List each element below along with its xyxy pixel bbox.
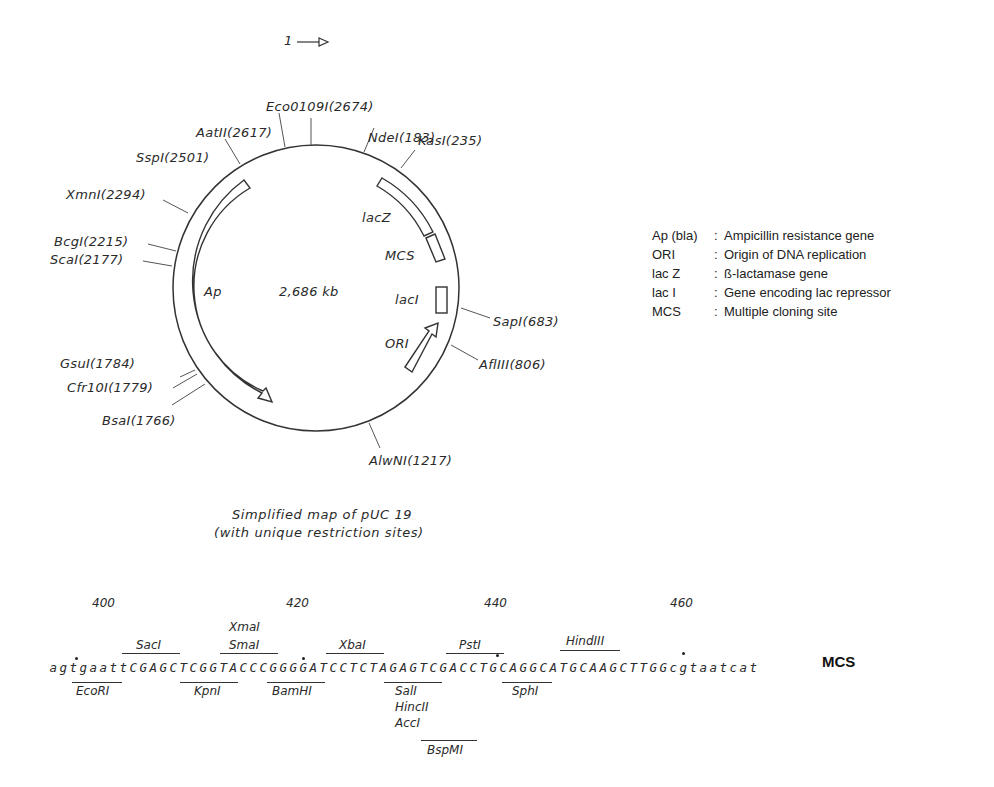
mcs-sequence: agtgaattCGAGCTCGGTACCCGGGGATCCTCTAGAGTCG… <box>48 660 758 675</box>
sequence-base: C <box>328 660 338 675</box>
sequence-base: g <box>678 660 688 675</box>
sequence-base: g <box>58 660 68 675</box>
sequence-base: T <box>368 660 378 675</box>
position-420: 420 <box>286 596 309 610</box>
origin-label: 1 <box>284 33 293 48</box>
sequence-base: G <box>388 660 398 675</box>
sequence-base: G <box>268 660 278 675</box>
sequence-base: C <box>538 660 548 675</box>
legend-desc: ß-lactamase gene <box>724 264 828 283</box>
site-label-xmni: XmnI(2294) <box>66 187 146 202</box>
sequence-base: A <box>598 660 608 675</box>
sequence-base: C <box>578 660 588 675</box>
sequence-base: T <box>318 660 328 675</box>
sequence-base: T <box>418 660 428 675</box>
legend-row: lac Z : ß-lactamase gene <box>652 264 891 283</box>
laci-box <box>436 287 447 313</box>
site-label-kasi: KasI(235) <box>418 133 482 148</box>
sequence-base: G <box>298 660 308 675</box>
plasmid-size-label: 2,686 kb <box>279 284 339 299</box>
sequence-base: c <box>668 660 678 675</box>
enzyme-bamhi-bar <box>267 682 325 683</box>
legend-key: ORI <box>652 245 714 264</box>
enzyme-kpni: KpnI <box>194 684 221 698</box>
sequence-base: t <box>68 660 78 675</box>
sequence-base: A <box>588 660 598 675</box>
mcs-box <box>426 234 445 262</box>
legend-key: lac Z <box>652 264 714 283</box>
sequence-base: T <box>558 660 568 675</box>
sequence-base: C <box>458 660 468 675</box>
gene-label-lacz: lacZ <box>362 210 391 225</box>
legend-row: MCS : Multiple cloning site <box>652 302 891 321</box>
legend-sep: : <box>714 226 724 245</box>
sequence-base: g <box>78 660 88 675</box>
enzyme-bspmi: BspMI <box>427 743 463 757</box>
ori-arrow <box>405 323 438 372</box>
enzyme-sphi-bar <box>502 682 552 683</box>
site-label-sspi: SspI(2501) <box>136 150 209 165</box>
sequence-base: C <box>188 660 198 675</box>
enzyme-sphi: SphI <box>512 684 538 698</box>
enzyme-xbai: XbaI <box>339 638 366 652</box>
sequence-base: C <box>468 660 478 675</box>
sequence-base: G <box>158 660 168 675</box>
sequence-base: T <box>218 660 228 675</box>
legend-desc: Ampicillin resistance gene <box>724 226 874 245</box>
sequence-base: A <box>228 660 238 675</box>
sequence-base: a <box>708 660 718 675</box>
sequence-base: G <box>288 660 298 675</box>
sequence-base: G <box>198 660 208 675</box>
gene-label-laci: lacI <box>395 292 419 307</box>
sequence-base: G <box>278 660 288 675</box>
sequence-base: G <box>438 660 448 675</box>
sequence-base: C <box>498 660 508 675</box>
sequence-base: A <box>148 660 158 675</box>
sequence-base: a <box>88 660 98 675</box>
gene-label-mcs: MCS <box>385 248 415 263</box>
sequence-base: G <box>488 660 498 675</box>
sequence-base: C <box>358 660 368 675</box>
legend: Ap (bla) : Ampicillin resistance gene OR… <box>652 226 891 321</box>
sequence-base: t <box>748 660 758 675</box>
sequence-base: C <box>428 660 438 675</box>
sequence-base: G <box>408 660 418 675</box>
sequence-base: T <box>178 660 188 675</box>
position-400: 400 <box>92 596 115 610</box>
enzyme-acci: AccI <box>395 716 420 730</box>
enzyme-xbai-bar <box>326 653 384 654</box>
legend-desc: Multiple cloning site <box>724 302 837 321</box>
enzyme-hindiii-bar <box>560 650 620 651</box>
sequence-base: T <box>348 660 358 675</box>
enzyme-bspmi-bar <box>421 740 477 741</box>
position-460: 460 <box>670 596 693 610</box>
sequence-base: t <box>718 660 728 675</box>
sequence-base: a <box>738 660 748 675</box>
site-label-alwni: AlwNI(1217) <box>369 453 452 468</box>
enzyme-hincii: HincII <box>395 700 429 714</box>
sequence-base: A <box>548 660 558 675</box>
enzyme-bamhi: BamHI <box>272 684 312 698</box>
sequence-base: a <box>48 660 58 675</box>
legend-row: lac I : Gene encoding lac repressor <box>652 283 891 302</box>
mcs-section-label: MCS <box>822 653 855 670</box>
enzyme-saci: SacI <box>136 638 161 652</box>
gene-label-ap: Ap <box>204 284 222 299</box>
sequence-base: G <box>568 660 578 675</box>
enzyme-sali: SalI <box>395 684 417 698</box>
site-label-aatii: AatII(2617) <box>196 125 272 140</box>
sequence-base: G <box>138 660 148 675</box>
enzyme-smai-bar <box>220 653 278 654</box>
site-label-gsui: GsuI(1784) <box>60 356 135 371</box>
gene-label-ori: ORI <box>385 336 409 351</box>
site-label-cfr10i: Cfr10I(1779) <box>67 380 153 395</box>
sequence-base: C <box>238 660 248 675</box>
caption-line-1: Simplified map of pUC 19 <box>232 507 412 522</box>
legend-sep: : <box>714 283 724 302</box>
sequence-base: T <box>478 660 488 675</box>
legend-desc: Origin of DNA replication <box>724 245 866 264</box>
sequence-base: A <box>508 660 518 675</box>
sequence-base: t <box>118 660 128 675</box>
sequence-base: G <box>608 660 618 675</box>
sequence-base: G <box>528 660 538 675</box>
